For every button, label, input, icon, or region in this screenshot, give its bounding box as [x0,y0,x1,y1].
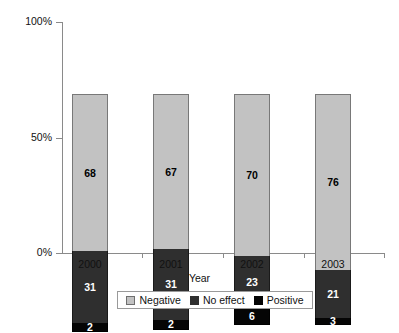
bar-value-negative-2003: 76 [327,177,339,188]
legend-swatch-negative-icon [126,296,135,305]
legend-swatch-positive-icon [254,296,263,305]
bar-segment-negative-2003[interactable]: 76 [315,94,351,270]
y-axis-label-100: 100% [8,16,52,26]
legend-item-no-effect[interactable]: No effect [190,295,245,306]
bar-2003[interactable]: 76 21 3 [315,94,351,325]
bar-value-positive-2002: 6 [249,311,255,322]
y-axis-tick-0 [56,253,62,254]
bar-segment-positive-2003[interactable]: 3 [315,318,351,325]
x-axis-category-2003: 2003 [303,258,363,270]
legend-label-no-effect: No effect [203,295,245,306]
bar-value-positive-2000: 2 [87,322,93,333]
bar-segment-negative-2000[interactable]: 68 [72,94,108,251]
y-axis-tick-50 [56,138,62,139]
legend-swatch-no-effect-icon [190,296,199,305]
bar-segment-positive-2000[interactable]: 2 [72,323,108,332]
y-axis-tick-100 [56,22,62,23]
bar-segment-positive-2002[interactable]: 6 [234,309,270,325]
y-axis-line [62,22,63,253]
legend-item-positive[interactable]: Positive [254,295,304,306]
bar-value-no-effect-2003: 21 [327,289,339,300]
bar-value-positive-2003: 3 [330,316,336,327]
x-axis-category-2001: 2001 [141,258,201,270]
bar-value-positive-2001: 2 [168,319,174,330]
bar-2000[interactable]: 68 31 2 [72,94,108,325]
x-axis-category-2000: 2000 [60,258,120,270]
bar-segment-negative-2002[interactable]: 70 [234,94,270,256]
x-axis-category-2002: 2002 [222,258,282,270]
x-axis-tick-4 [384,253,385,258]
legend-label-positive: Positive [267,295,304,306]
bar-segment-positive-2001[interactable]: 2 [153,320,189,329]
bar-value-negative-2000: 68 [84,168,96,179]
bar-value-negative-2001: 67 [165,167,177,178]
legend-item-negative[interactable]: Negative [126,295,180,306]
chart-legend: Negative No effect Positive [117,291,313,309]
bar-value-negative-2002: 70 [246,170,258,181]
x-axis-title: Year [0,272,399,284]
bar-segment-negative-2001[interactable]: 67 [153,94,189,249]
y-axis-label-0: 0% [8,247,52,257]
y-axis-label-50: 50% [8,132,52,142]
legend-label-negative: Negative [139,295,180,306]
